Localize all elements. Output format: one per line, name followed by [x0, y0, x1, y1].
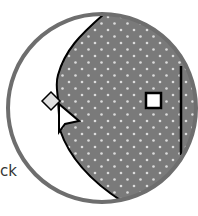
- magnified-canvas: [0, 0, 198, 216]
- partial-label: ck: [0, 162, 17, 180]
- resize-handle-icon[interactable]: [146, 93, 161, 108]
- magnifier-lens-view: ck: [0, 0, 198, 216]
